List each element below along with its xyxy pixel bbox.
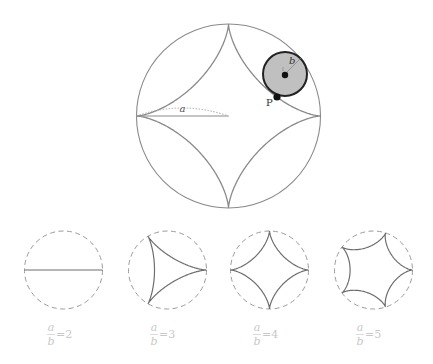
main-hypocycloid-figure: abP — [137, 24, 321, 208]
example-2 — [25, 231, 103, 309]
label-b: b — [253, 336, 260, 347]
label-b: b — [356, 336, 363, 347]
label-b: b — [150, 336, 157, 347]
ratio-label-4: ab =4 — [253, 322, 278, 347]
label-a: a — [48, 322, 55, 333]
ratio-label-5: ab =5 — [356, 322, 381, 347]
dashed-circle — [335, 231, 413, 309]
label-eq: =4 — [262, 328, 278, 341]
label-eq: =5 — [365, 328, 381, 341]
label-eq: =2 — [56, 328, 72, 341]
label-a: a — [151, 322, 158, 333]
dashed-circle — [129, 231, 207, 309]
point-p-dot — [273, 93, 280, 100]
label-a: a — [254, 322, 261, 333]
hypocycloid-curve — [342, 233, 413, 307]
ratio-label-3: ab =3 — [150, 322, 175, 347]
label-b: b — [289, 55, 295, 66]
dashed-circle — [231, 231, 309, 309]
ratio-label-2: ab =2 — [47, 322, 72, 347]
label-a: a — [180, 103, 186, 114]
hypocycloid-curve — [148, 236, 207, 304]
example-3 — [129, 231, 207, 309]
example-4 — [231, 231, 309, 309]
label-b: b — [47, 336, 54, 347]
example-5 — [335, 231, 413, 309]
label-a: a — [357, 322, 364, 333]
center-dot — [282, 72, 288, 78]
hypocycloid-diagram: abP — [0, 0, 433, 364]
label-eq: =3 — [159, 328, 175, 341]
hypocycloid-examples — [25, 231, 413, 309]
label-p: P — [266, 97, 273, 108]
